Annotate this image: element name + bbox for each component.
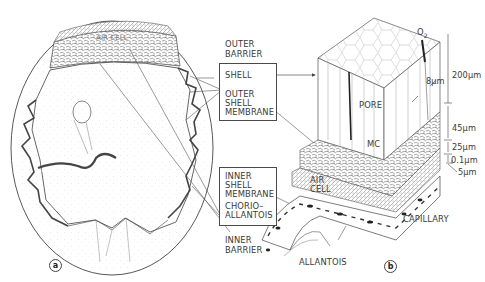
inner-shell-membrane-label-line3: MEMBRANE — [225, 190, 274, 199]
air-cell-label-block-line2: CELL — [310, 185, 331, 194]
panel-label-b: b — [384, 260, 397, 273]
inner-barrier-heading-line2: BARRIER — [225, 246, 262, 255]
allantois-label: ALLANTOIS — [299, 258, 347, 267]
oxygen-subscript: 2 — [424, 32, 428, 39]
oxygen-symbol: O — [417, 27, 424, 37]
air-cell-label-egg: AIR CELL — [96, 34, 128, 43]
inner-barrier-box: INNER SHELL MEMBRANE CHORIO– ALLANTOIS — [219, 167, 277, 226]
pore-label: PORE — [359, 101, 382, 110]
inner-barrier-heading-line1: INNER — [225, 236, 252, 245]
mc-label: MC — [367, 140, 380, 149]
outer-barrier-heading-line2: BARRIER — [225, 50, 262, 59]
oxygen-label: O2 — [417, 28, 428, 40]
outer-shell-membrane-label-line3: MEMBRANE — [225, 108, 274, 117]
labels-layer: AIR CELL OUTER BARRIER SHELL OUTER SHELL… — [0, 0, 485, 282]
thickness-chorioallantois: 5µm — [458, 168, 477, 177]
capillary-label: CAPILLARY — [403, 215, 449, 224]
thickness-outer-membrane: 45µm — [452, 124, 476, 133]
thickness-shell: 200µm — [452, 71, 481, 80]
outer-barrier-box: SHELL OUTER SHELL MEMBRANE — [219, 63, 277, 121]
thickness-limiting-membrane: 0.1µm — [451, 156, 478, 165]
outer-barrier-heading-line1: OUTER — [225, 40, 254, 49]
chorioallantois-label-line2: ALLANTOIS — [225, 211, 273, 220]
shell-label: SHELL — [225, 71, 252, 80]
thickness-inner-membrane: 25µm — [452, 143, 476, 152]
pore-width-label: 8µm — [426, 77, 445, 86]
panel-label-a: a — [49, 259, 62, 272]
